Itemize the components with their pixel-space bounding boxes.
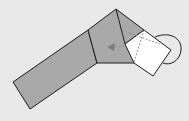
long-strip xyxy=(13,30,97,109)
diagram-canvas xyxy=(0,0,189,121)
origami-diagram xyxy=(0,0,189,121)
